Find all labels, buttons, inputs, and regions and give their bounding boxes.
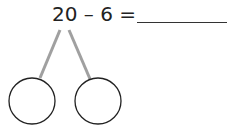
right-part-circle[interactable] [75,78,121,124]
number-bond-diagram [0,0,230,138]
left-connector-line [40,30,60,78]
right-connector-line [69,30,90,79]
left-part-circle[interactable] [9,78,55,124]
